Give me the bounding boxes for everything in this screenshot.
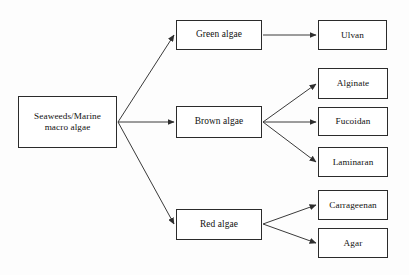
- node-red-algae[interactable]: Red algae: [176, 209, 262, 240]
- node-root-label: Seaweeds/Marine macro algae: [32, 111, 103, 133]
- node-brown-algae-label: Brown algae: [193, 116, 246, 127]
- node-alginate-label: Alginate: [335, 78, 371, 89]
- node-carrageenan[interactable]: Carrageenan: [318, 190, 388, 220]
- node-laminaran-label: Laminaran: [331, 157, 376, 168]
- node-agar-label: Agar: [342, 238, 365, 249]
- node-green-algae-label: Green algae: [194, 29, 244, 40]
- connector-root-to-green_algae: [118, 35, 174, 122]
- node-fucoidan[interactable]: Fucoidan: [318, 107, 388, 136]
- node-fucoidan-label: Fucoidan: [334, 116, 373, 127]
- node-red-algae-label: Red algae: [198, 219, 240, 230]
- connector-root-to-red_algae: [118, 122, 174, 224]
- node-brown-algae[interactable]: Brown algae: [176, 106, 262, 138]
- node-alginate[interactable]: Alginate: [318, 68, 388, 99]
- node-green-algae[interactable]: Green algae: [176, 20, 262, 50]
- node-ulvan[interactable]: Ulvan: [318, 20, 387, 50]
- diagram-canvas: Seaweeds/Marine macro algae Green algae …: [0, 0, 409, 275]
- connector-brown_algae-to-laminaran: [263, 122, 316, 162]
- node-root[interactable]: Seaweeds/Marine macro algae: [18, 96, 117, 148]
- connector-red_algae-to-carrageenan: [263, 205, 316, 224]
- node-root-label-line1: Seaweeds/Marine: [34, 111, 101, 121]
- connector-red_algae-to-agar: [263, 224, 316, 243]
- node-ulvan-label: Ulvan: [339, 30, 366, 41]
- node-agar[interactable]: Agar: [318, 228, 388, 258]
- node-carrageenan-label: Carrageenan: [327, 200, 379, 211]
- node-laminaran[interactable]: Laminaran: [318, 147, 388, 177]
- connector-brown_algae-to-alginate: [263, 84, 316, 122]
- node-root-label-line2: macro algae: [45, 122, 91, 132]
